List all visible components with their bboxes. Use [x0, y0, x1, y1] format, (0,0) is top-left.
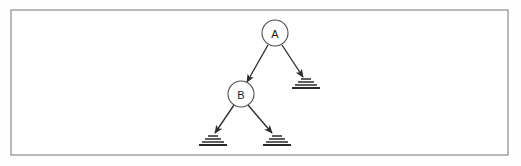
tree-node-b: B [228, 81, 254, 107]
node-label: A [271, 28, 279, 40]
tree-diagram-canvas: AB [0, 0, 521, 166]
outer-border [11, 10, 508, 155]
node-label: B [237, 89, 245, 101]
figure-root: AB [0, 0, 521, 166]
tree-node-a: A [262, 20, 288, 46]
